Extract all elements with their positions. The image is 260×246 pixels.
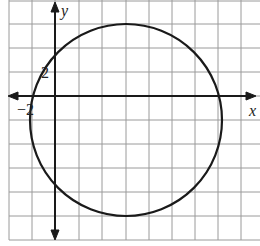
x-tick-label-neg2: −2: [17, 101, 34, 118]
y-tick-label-2: 2: [41, 64, 49, 81]
y-axis-label: y: [59, 2, 69, 20]
y-axis-up-arrow-icon: [51, 2, 59, 12]
coordinate-plane: y x 2 −2: [0, 0, 260, 246]
y-axis-down-arrow-icon: [51, 230, 59, 240]
y-axis: [51, 2, 59, 240]
x-axis-label: x: [248, 102, 256, 119]
x-axis-right-arrow-icon: [246, 92, 256, 100]
